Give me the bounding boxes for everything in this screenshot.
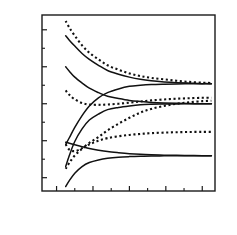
- series-2-dotted-upper: [66, 90, 212, 104]
- series-1-dotted-upper: [66, 21, 212, 83]
- chart-figure: [0, 0, 237, 235]
- plot-canvas: [0, 0, 237, 235]
- series-3-solid-lower: [66, 156, 212, 187]
